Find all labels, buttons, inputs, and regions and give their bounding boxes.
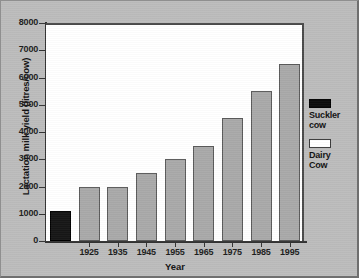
y-axis-tick xyxy=(39,50,45,51)
figure-panel: Lactation milk yield (litres/cow) 800070… xyxy=(0,0,359,278)
chart-screenshot: Lactation milk yield (litres/cow) 800070… xyxy=(0,0,359,278)
legend-swatch-icon xyxy=(309,139,331,148)
x-axis-line xyxy=(45,241,307,243)
y-axis-tick-label: 8000 xyxy=(4,18,38,27)
y-axis-tick xyxy=(39,241,45,242)
bar-1925 xyxy=(79,187,100,242)
x-axis-tick-label: 1935 xyxy=(103,247,133,257)
y-axis-tick xyxy=(39,159,45,160)
y-axis-tick-label: 2000 xyxy=(4,182,38,191)
y-axis-tick xyxy=(39,23,45,24)
x-axis-tick-label: 1925 xyxy=(74,247,104,257)
y-axis-tick xyxy=(39,214,45,215)
y-axis-tick-label: 6000 xyxy=(4,73,38,82)
plot-area xyxy=(46,23,304,241)
legend-label: Cow xyxy=(309,160,357,170)
bar-1985 xyxy=(251,91,272,241)
bar-suckler-cow xyxy=(50,211,71,241)
legend-entry: Sucklercow xyxy=(309,99,357,130)
x-axis-tick-label: 1985 xyxy=(246,247,276,257)
x-axis-tick-label: 1945 xyxy=(131,247,161,257)
legend-label: Dairy xyxy=(309,150,357,160)
y-axis-tick-label: 3000 xyxy=(4,154,38,163)
x-axis-tick-label: 1955 xyxy=(160,247,190,257)
legend-label: Suckler xyxy=(309,110,357,120)
legend-label: cow xyxy=(309,120,357,130)
bar-1945 xyxy=(136,173,157,241)
y-axis-labels: 800070006000500040003000200010000 xyxy=(1,1,38,278)
y-axis-tick xyxy=(39,78,45,79)
bar-1965 xyxy=(193,146,214,241)
legend-swatch-icon xyxy=(309,99,331,108)
y-axis-tick-label: 4000 xyxy=(4,127,38,136)
chart-legend: SucklercowDairyCow xyxy=(309,99,357,179)
x-axis-title: Year xyxy=(46,261,304,272)
y-axis-tick-label: 5000 xyxy=(4,100,38,109)
y-axis-tick xyxy=(39,132,45,133)
legend-entry: DairyCow xyxy=(309,139,357,170)
y-axis-tick-label: 1000 xyxy=(4,209,38,218)
x-axis-tick-label: 1965 xyxy=(189,247,219,257)
bar-1955 xyxy=(165,159,186,241)
bar-1935 xyxy=(107,187,128,242)
bar-1995 xyxy=(279,64,300,241)
y-axis-tick-label: 0 xyxy=(4,236,38,245)
x-axis-tick-label: 1995 xyxy=(275,247,305,257)
x-axis-tick-label: 1975 xyxy=(217,247,247,257)
y-axis-tick xyxy=(39,105,45,106)
y-axis-tick xyxy=(39,187,45,188)
y-axis-tick-label: 7000 xyxy=(4,45,38,54)
bar-1975 xyxy=(222,118,243,241)
